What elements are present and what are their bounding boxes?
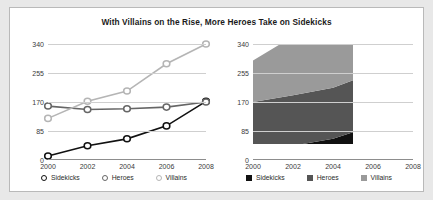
area-chart-y-tick-label: 85	[241, 128, 249, 135]
data-point-heroes	[163, 104, 170, 110]
data-point-heroes	[84, 106, 91, 112]
line-chart-y-tick-label: 340	[32, 41, 44, 48]
area-chart-gridline	[253, 131, 413, 132]
line-chart-plot-area: 08517025534020002002200420062008	[48, 44, 206, 160]
area-chart-legend-item[interactable]: Heroes	[307, 174, 339, 181]
area-chart-x-tick-label: 2006	[365, 163, 381, 170]
line-chart-x-tick-label: 2006	[159, 163, 175, 170]
data-point-villains	[124, 88, 131, 94]
legend-label: Villains	[166, 174, 187, 181]
data-point-villains	[163, 61, 170, 67]
area-chart-legend: SidekicksHeroesVillains	[217, 174, 421, 181]
area-chart-gridline	[253, 73, 413, 74]
area-chart-y-tick-label: 255	[237, 70, 249, 77]
line-chart-gridline	[48, 44, 206, 45]
line-chart-x-tick-label: 2008	[198, 163, 214, 170]
legend-label: Sidekicks	[256, 174, 285, 181]
area-chart-gridline	[253, 102, 413, 103]
legend-circle-icon	[102, 175, 108, 181]
line-chart-x-axis	[48, 159, 206, 160]
line-chart-y-tick-label: 170	[32, 99, 44, 106]
area-band-villains	[253, 0, 413, 102]
data-point-villains	[45, 115, 52, 121]
line-chart-x-tick-label: 2000	[40, 163, 56, 170]
area-chart-x-tick-label: 2008	[405, 163, 421, 170]
legend-square-icon	[246, 175, 252, 181]
area-chart-plot-area: 08517025534020002002200420062008	[253, 44, 413, 160]
line-chart-gridline	[48, 102, 206, 103]
data-point-sidekicks	[124, 136, 131, 142]
line-chart-y-tick-label: 85	[36, 128, 44, 135]
legend-circle-icon	[41, 175, 47, 181]
area-chart-y-tick-label: 170	[237, 99, 249, 106]
area-chart-x-axis	[253, 159, 413, 160]
chart-figure: With Villains on the Rise, More Heroes T…	[9, 7, 424, 192]
legend-square-icon	[361, 175, 367, 181]
area-chart-x-tick-label: 2002	[285, 163, 301, 170]
area-chart-x-tick-label: 2000	[245, 163, 261, 170]
line-chart-legend-item[interactable]: Sidekicks	[41, 174, 80, 181]
area-chart-legend-item[interactable]: Villains	[361, 174, 392, 181]
area-chart-panel: 08517025534020002002200420062008 Sidekic…	[217, 32, 421, 187]
area-chart-gridline	[253, 44, 413, 45]
data-point-heroes	[124, 106, 131, 112]
data-point-sidekicks	[84, 143, 91, 149]
area-chart-y-tick-label: 340	[237, 41, 249, 48]
line-chart-legend-item[interactable]: Villains	[156, 174, 187, 181]
line-chart-gridline	[48, 73, 206, 74]
line-chart-y-tick-label: 255	[32, 70, 44, 77]
area-chart-x-tick-label: 2004	[325, 163, 341, 170]
legend-square-icon	[307, 175, 313, 181]
line-chart-legend: SidekicksHeroesVillains	[14, 174, 214, 181]
line-chart-legend-item[interactable]: Heroes	[102, 174, 134, 181]
legend-label: Heroes	[317, 174, 339, 181]
line-chart-x-tick-label: 2004	[119, 163, 135, 170]
data-point-sidekicks	[163, 123, 170, 129]
legend-label: Sidekicks	[51, 174, 80, 181]
chart-title: With Villains on the Rise, More Heroes T…	[10, 17, 423, 27]
area-chart-legend-item[interactable]: Sidekicks	[246, 174, 285, 181]
data-point-heroes	[45, 103, 52, 109]
legend-label: Villains	[371, 174, 392, 181]
line-chart-panel: 08517025534020002002200420062008 Sidekic…	[14, 32, 214, 187]
line-chart-gridline	[48, 131, 206, 132]
line-chart-x-tick-label: 2002	[80, 163, 96, 170]
legend-label: Heroes	[112, 174, 134, 181]
legend-circle-icon	[156, 175, 162, 181]
